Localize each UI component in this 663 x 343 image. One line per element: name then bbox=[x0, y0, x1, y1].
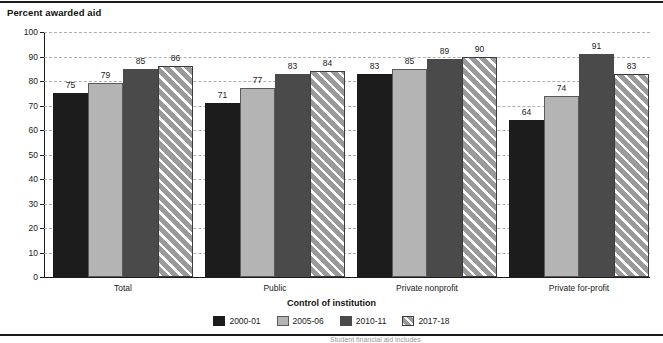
bar bbox=[158, 66, 193, 277]
y-axis-tick-label: 30 bbox=[8, 199, 38, 209]
bar-value-label: 83 bbox=[357, 61, 392, 71]
bar-value-label: 84 bbox=[310, 58, 345, 68]
legend-label: 2000-01 bbox=[229, 316, 260, 326]
y-axis-tick bbox=[40, 277, 44, 278]
y-axis-tick bbox=[40, 155, 44, 156]
bar-value-label: 86 bbox=[158, 53, 193, 63]
bar-value-label: 91 bbox=[579, 41, 614, 51]
bar-value-label: 85 bbox=[123, 56, 158, 66]
y-axis-labels: 0102030405060708090100 bbox=[0, 32, 38, 277]
bar-value-label: 83 bbox=[275, 61, 310, 71]
bar bbox=[123, 69, 158, 277]
y-axis-tick-label: 60 bbox=[8, 125, 38, 135]
legend-item[interactable]: 2000-01 bbox=[213, 316, 260, 326]
legend-item[interactable]: 2010-11 bbox=[340, 316, 387, 326]
bar bbox=[310, 71, 345, 277]
x-axis-line bbox=[44, 277, 650, 278]
legend-item[interactable]: 2017-18 bbox=[402, 316, 449, 326]
y-axis-tick bbox=[40, 228, 44, 229]
bar bbox=[205, 103, 240, 277]
bar bbox=[462, 57, 497, 278]
legend-label: 2017-18 bbox=[418, 316, 449, 326]
y-axis-tick-label: 40 bbox=[8, 174, 38, 184]
y-axis-tick bbox=[40, 253, 44, 254]
x-axis-group-label: Public bbox=[205, 283, 345, 293]
gridline bbox=[44, 32, 650, 33]
y-axis-tick-label: 70 bbox=[8, 101, 38, 111]
bar bbox=[275, 74, 310, 277]
top-divider bbox=[0, 1, 663, 3]
bar bbox=[240, 88, 275, 277]
bar-value-label: 83 bbox=[614, 61, 649, 71]
bar bbox=[614, 74, 649, 277]
legend-swatch-icon bbox=[340, 316, 352, 326]
y-axis-tick bbox=[40, 81, 44, 82]
bar bbox=[392, 69, 427, 277]
bar-value-label: 77 bbox=[240, 75, 275, 85]
bar bbox=[53, 93, 88, 277]
x-axis-group-label: Total bbox=[53, 283, 193, 293]
legend-label: 2005-06 bbox=[293, 316, 324, 326]
bar-value-label: 79 bbox=[88, 70, 123, 80]
source-note: Student financial aid includes bbox=[330, 336, 663, 343]
y-axis-tick bbox=[40, 204, 44, 205]
chart-title: Percent awarded aid bbox=[7, 7, 101, 18]
legend-swatch-icon bbox=[402, 316, 414, 326]
y-axis-tick-label: 50 bbox=[8, 150, 38, 160]
y-axis-tick bbox=[40, 179, 44, 180]
bar-value-label: 89 bbox=[427, 46, 462, 56]
bar-value-label: 74 bbox=[544, 83, 579, 93]
bar bbox=[544, 96, 579, 277]
bar bbox=[357, 74, 392, 277]
legend-swatch-icon bbox=[277, 316, 289, 326]
plot-area: 75798586717783848385899064749183 bbox=[44, 32, 650, 277]
y-axis-tick bbox=[40, 32, 44, 33]
y-axis-tick-label: 90 bbox=[8, 52, 38, 62]
bar bbox=[509, 120, 544, 277]
y-axis-tick-label: 10 bbox=[8, 248, 38, 258]
y-axis-tick-label: 20 bbox=[8, 223, 38, 233]
y-axis-tick bbox=[40, 106, 44, 107]
bar bbox=[427, 59, 462, 277]
y-axis-tick bbox=[40, 57, 44, 58]
x-axis-group-label: Private nonprofit bbox=[357, 283, 497, 293]
x-axis-group-label: Private for-profit bbox=[509, 283, 649, 293]
bar-value-label: 85 bbox=[392, 56, 427, 66]
bar bbox=[579, 54, 614, 277]
y-axis-tick-label: 80 bbox=[8, 76, 38, 86]
bar-value-label: 90 bbox=[462, 44, 497, 54]
bar-value-label: 71 bbox=[205, 90, 240, 100]
legend-swatch-icon bbox=[213, 316, 225, 326]
chart-legend: 2000-012005-062010-112017-18 bbox=[0, 316, 663, 326]
x-axis-title: Control of institution bbox=[0, 298, 663, 308]
y-axis-tick-label: 0 bbox=[8, 272, 38, 282]
bar bbox=[88, 83, 123, 277]
bar-value-label: 64 bbox=[509, 107, 544, 117]
bar-value-label: 75 bbox=[53, 80, 88, 90]
chart-page: Percent awarded aid 01020304050607080901… bbox=[0, 0, 663, 343]
y-axis-tick-label: 100 bbox=[8, 27, 38, 37]
y-axis-tick bbox=[40, 130, 44, 131]
legend-item[interactable]: 2005-06 bbox=[277, 316, 324, 326]
legend-label: 2010-11 bbox=[356, 316, 387, 326]
